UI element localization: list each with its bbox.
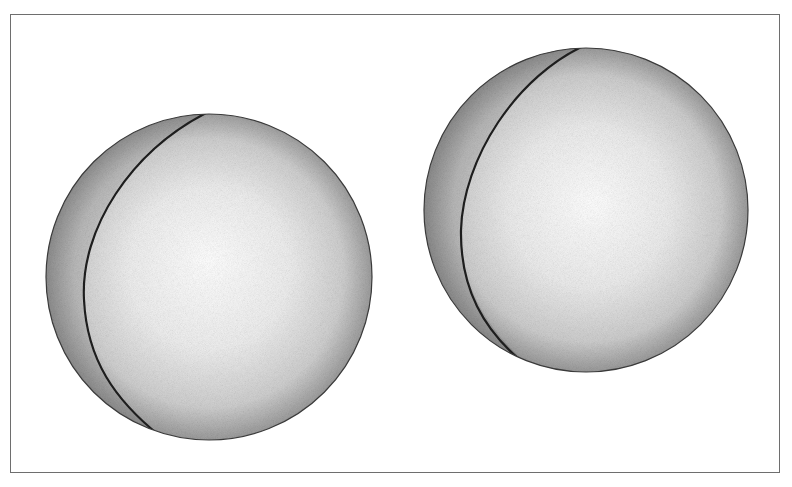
right-sphere — [400, 43, 748, 372]
sphere-scene — [0, 0, 792, 487]
left-sphere — [20, 110, 372, 440]
